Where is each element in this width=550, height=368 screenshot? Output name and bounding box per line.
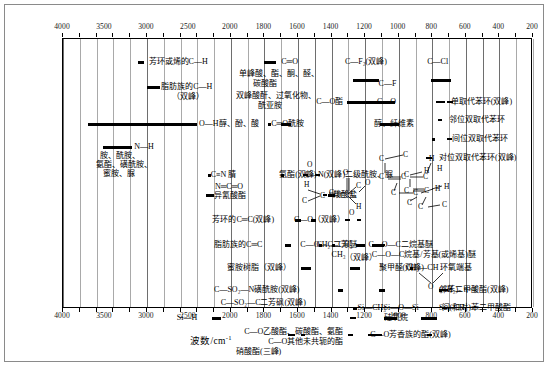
axis-title-text: 波数/cm [190, 336, 226, 346]
svg-text:C: C [302, 196, 307, 205]
absorption-bar [264, 61, 277, 64]
axis-tick-label-1600-bottom: 1600 [289, 311, 305, 320]
band-label-l07: 氨酯、磺酰胺、 [96, 160, 152, 169]
axis-tick-label-1800-bottom: 1800 [256, 311, 272, 320]
svg-text:H: H [429, 154, 435, 163]
axis-tick-label-600-top: 600 [459, 22, 471, 31]
absorption-bar [447, 138, 452, 140]
axis-tick-600 [465, 33, 466, 37]
axis-tick-2800 [163, 308, 164, 312]
absorption-bar [212, 317, 220, 320]
absorption-bar [350, 317, 356, 319]
axis-tick-900 [415, 33, 416, 37]
axis-tick-200 [532, 308, 533, 312]
axis-tick-1900 [247, 33, 248, 37]
svg-text:O: O [428, 282, 434, 291]
axis-tick-300 [515, 308, 516, 312]
axis-tick-label-4000-bottom: 4000 [54, 311, 70, 320]
band-label-l29: C—F [379, 79, 397, 88]
gridline-3000 [147, 39, 148, 307]
gridline-400 [499, 39, 500, 307]
band-label-l32: C—Cl [427, 57, 448, 66]
axis-tick-2000 [230, 33, 231, 37]
axis-tick-3000 [146, 33, 147, 37]
band-label-l42: C—O—C二烷基醚 [369, 240, 433, 249]
axis-tick-1200 [364, 33, 365, 37]
band-label-l01: 芳环或烯的C—H [149, 57, 208, 66]
band-label-l40: C—O（双峰） [294, 215, 345, 224]
absorption-bar [350, 267, 360, 270]
svg-text:H: H [444, 182, 450, 191]
axis-tick-3400 [112, 308, 113, 312]
axis-tick-1800 [263, 308, 264, 312]
band-label-l02: 脂肪族的C—H [161, 82, 212, 91]
axis-tick-2200 [213, 308, 214, 312]
ir-correlation-chart-figure: 4000350030002500200018001600140012001000… [0, 0, 550, 368]
molecule-sketch-alkene-2: CHCCHCC [402, 167, 456, 213]
axis-tick-label-200-top: 200 [526, 22, 538, 31]
molecule-sketch-oxygen-2: O [347, 199, 361, 219]
band-label-l52: Si—CH₃ [439, 303, 468, 312]
gridline-500 [483, 39, 484, 307]
axis-tick-label-1400-bottom: 1400 [323, 311, 339, 320]
axis-tick-2400 [196, 33, 197, 37]
band-label-l09: C≡N 腈 [211, 170, 237, 179]
axis-title: 波数/cm-1 [190, 333, 232, 347]
svg-text:C: C [391, 188, 396, 197]
axis-tick-400 [498, 33, 499, 37]
absorption-bar [103, 146, 132, 149]
band-label-l03: （双峰） [172, 92, 204, 101]
svg-text:C: C [404, 170, 409, 179]
svg-text:H: H [304, 180, 310, 189]
axis-tick-1500 [314, 308, 315, 312]
band-label-l59: （双峰） [345, 253, 377, 262]
band-label-l18: C—O乙酸酯、碳酸酯、氨酯 [244, 327, 343, 336]
svg-text:C: C [424, 186, 429, 195]
axis-tick-2000 [230, 308, 231, 312]
absorption-bar [438, 119, 442, 121]
absorption-bar [379, 289, 386, 292]
svg-text:C: C [404, 186, 409, 195]
gridline-2800 [164, 39, 165, 307]
absorption-bar [357, 219, 361, 221]
axis-tick-200 [532, 33, 533, 37]
axis-tick-3800 [79, 308, 80, 312]
band-label-l25: 酰亚胺 [258, 101, 282, 110]
absorption-bar [206, 194, 214, 197]
absorption-bar [353, 307, 357, 310]
axis-tick-300 [515, 33, 516, 37]
band-label-l16: C—SO₂—C二芳砜(双峰) [221, 298, 306, 307]
axis-tick-label-2000-bottom: 2000 [222, 311, 238, 320]
band-label-l28: C—O酯 [316, 97, 343, 106]
axis-tick-3200 [129, 33, 130, 37]
absorption-bar [88, 123, 197, 126]
axis-tick-label-3500-top: 3500 [96, 22, 112, 31]
plot-area: 芳环或烯的C—H脂肪族的C—H（双峰）O—H醇、酚、酸N—H胺、酰胺、氨酯、磺酰… [62, 38, 532, 308]
axis-tick-label-4000-top: 4000 [54, 22, 70, 31]
band-label-l19: C—O其他未共轭的酯 [268, 337, 343, 346]
band-label-l13: 脂肪族的C═C [214, 240, 262, 249]
band-label-l55: CH₃ [332, 250, 346, 259]
band-label-l20: 硝酸酯(三峰) [236, 347, 281, 356]
svg-text:C: C [351, 190, 356, 199]
axis-tick-1400 [331, 308, 332, 312]
axis-tick-label-400-bottom: 400 [493, 311, 505, 320]
axis-tick-label-3000-top: 3000 [138, 22, 154, 31]
svg-text:C: C [442, 200, 447, 209]
axis-tick-label-600-bottom: 600 [459, 311, 471, 320]
absorption-bar [431, 79, 451, 82]
band-label-l43: C—O—C烷基/芳基(或烯基)醚 [372, 250, 476, 259]
band-label-l14: 蜜胺树脂（双峰） [227, 263, 291, 272]
band-label-l33: 单取代苯环(双峰) [451, 97, 512, 106]
axis-tick-1300 [347, 33, 348, 37]
axis-tick-800 [431, 308, 432, 312]
band-label-l31: 醇、纤维素 [374, 119, 414, 128]
svg-text:O: O [343, 168, 349, 177]
axis-tick-label-3000-bottom: 3000 [138, 311, 154, 320]
axis-title-exponent: -1 [226, 334, 232, 341]
axis-tick-4000 [62, 308, 63, 312]
axis-tick-1700 [280, 33, 281, 37]
axis-tick-2800 [163, 33, 164, 37]
band-label-l24: 双峰酸酐、过氧化物、 [236, 91, 316, 100]
molecule-sketch-epoxide: O [416, 271, 450, 293]
